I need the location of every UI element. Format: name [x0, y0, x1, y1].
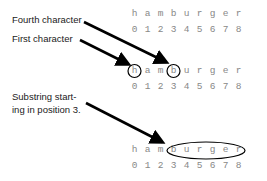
ellipse-substring — [167, 142, 245, 159]
arrow-first — [80, 40, 128, 64]
circle-position-3 — [167, 65, 180, 78]
annotation-overlay — [0, 0, 267, 181]
arrow-substring — [86, 103, 162, 142]
arrow-fourth — [84, 22, 166, 62]
circle-position-0 — [128, 65, 141, 78]
